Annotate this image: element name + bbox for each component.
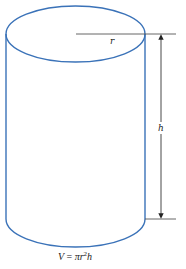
formula-equals: =: [67, 251, 73, 262]
radius-label: r: [110, 36, 115, 46]
height-label: h: [158, 123, 164, 133]
cylinder-diagram: r h: [0, 0, 186, 269]
formula-v: V: [58, 251, 64, 262]
formula-h: h: [87, 251, 92, 262]
cylinder-bottom-arc: [6, 219, 145, 247]
volume-formula: V = πr2h: [0, 250, 150, 262]
